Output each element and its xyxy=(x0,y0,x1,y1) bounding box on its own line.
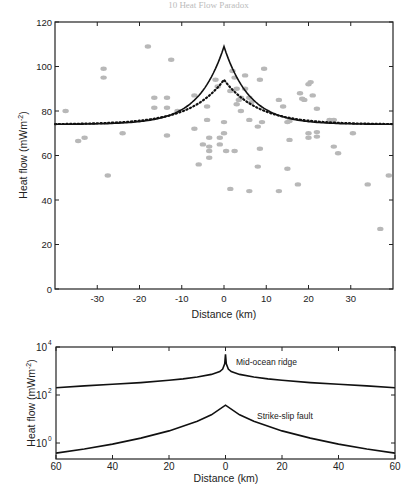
y-tick-label: 120 xyxy=(36,17,52,28)
data-point xyxy=(75,139,81,143)
data-point xyxy=(238,109,244,113)
data-point xyxy=(200,142,206,146)
data-point xyxy=(246,189,252,193)
data-point xyxy=(310,93,316,97)
data-point xyxy=(331,144,337,148)
data-point xyxy=(151,96,157,100)
data-point xyxy=(100,75,106,79)
data-point xyxy=(234,87,240,91)
data-point xyxy=(284,167,290,171)
data-point xyxy=(276,98,282,102)
data-point xyxy=(261,67,267,71)
data-point xyxy=(217,136,223,140)
x-tick-label: 40 xyxy=(333,461,345,472)
strike-slip-fault-curve xyxy=(56,405,395,453)
data-point xyxy=(221,131,227,135)
data-point xyxy=(314,134,320,138)
data-point xyxy=(62,109,68,113)
data-point xyxy=(307,80,313,84)
figure: -30-20-100102030020406080100120 Distance… xyxy=(0,0,417,500)
data-point xyxy=(305,136,311,140)
data-point xyxy=(204,104,210,108)
data-point xyxy=(105,173,111,177)
y-tick-label: 100 xyxy=(36,61,52,72)
data-point xyxy=(212,78,218,82)
data-point xyxy=(164,133,170,137)
data-point xyxy=(386,173,392,177)
x-tick-label: 30 xyxy=(345,293,356,304)
data-point xyxy=(119,131,125,135)
top-axis-ticks: -30-20-100102030020406080100120 xyxy=(36,17,393,305)
x-tick-label: 20 xyxy=(303,293,314,304)
data-point xyxy=(297,91,303,95)
data-point xyxy=(217,142,223,146)
data-point xyxy=(259,120,265,124)
y-tick-label: 10 xyxy=(36,342,48,353)
data-point xyxy=(206,144,212,148)
y-tick-label: 20 xyxy=(41,239,52,250)
x-tick-label: 20 xyxy=(276,461,288,472)
y-tick-label: 10 xyxy=(36,390,48,401)
data-point xyxy=(286,138,292,142)
bottom-x-axis-label: Distance (km) xyxy=(194,472,259,484)
y-tick-label: 10 xyxy=(36,438,48,449)
data-point xyxy=(255,164,261,168)
data-point xyxy=(257,147,263,151)
data-point xyxy=(350,131,356,135)
x-tick-label: -10 xyxy=(175,293,189,304)
data-point xyxy=(81,136,87,140)
data-point xyxy=(206,136,212,140)
data-point xyxy=(280,104,286,108)
ridge-annotation: Mid-ocean ridge xyxy=(236,357,297,367)
x-tick-label: 0 xyxy=(221,293,226,304)
y-tick-exponent: 0 xyxy=(48,435,52,442)
data-point xyxy=(206,156,212,160)
heat-flow-log-chart: 6040200204060100102104 Mid-ocean ridge S… xyxy=(25,339,401,484)
bottom-y-axis-label: Heat flow (mWm-2) xyxy=(25,359,37,446)
observed-points xyxy=(62,44,392,231)
data-point xyxy=(314,130,320,134)
data-point xyxy=(206,149,212,153)
x-tick-label: 40 xyxy=(107,461,119,472)
y-tick-label: 0 xyxy=(47,284,52,295)
x-tick-label: -30 xyxy=(90,293,104,304)
top-x-axis-label: Distance (km) xyxy=(192,308,257,320)
y-tick-exponent: 2 xyxy=(48,387,52,394)
data-point xyxy=(191,127,197,131)
x-tick-label: 0 xyxy=(223,461,229,472)
data-point xyxy=(365,182,371,186)
y-tick-label: 80 xyxy=(41,106,52,117)
top-plot-frame xyxy=(55,22,393,289)
data-point xyxy=(164,106,170,110)
y-tick-exponent: 4 xyxy=(48,339,52,346)
mid-ocean-ridge-curve xyxy=(56,354,395,388)
y-tick-label: 40 xyxy=(41,195,52,206)
data-point xyxy=(257,78,263,82)
fault-annotation: Strike-slip fault xyxy=(257,411,313,421)
data-point xyxy=(196,162,202,166)
data-point xyxy=(227,187,233,191)
data-point xyxy=(377,227,383,231)
data-point xyxy=(231,149,237,153)
data-point xyxy=(100,67,106,71)
y-tick-label: 60 xyxy=(41,150,52,161)
data-point xyxy=(276,189,282,193)
x-tick-label: 20 xyxy=(163,461,175,472)
heat-flow-scatter-chart: -30-20-100102030020406080100120 Distance… xyxy=(17,17,393,321)
data-point xyxy=(168,58,174,62)
data-point xyxy=(295,182,301,186)
data-point xyxy=(314,107,320,111)
x-tick-label: 10 xyxy=(261,293,272,304)
data-point xyxy=(246,118,252,122)
data-point xyxy=(145,44,151,48)
data-point xyxy=(335,151,341,155)
data-point xyxy=(164,96,170,100)
data-point xyxy=(255,124,261,128)
data-point xyxy=(151,106,157,110)
data-point xyxy=(305,131,311,135)
model-curve-solid xyxy=(55,47,393,125)
data-point xyxy=(234,102,240,106)
data-point xyxy=(299,97,305,101)
bottom-axis-ticks: 6040200204060100102104 xyxy=(36,339,401,472)
x-tick-label: 60 xyxy=(389,461,401,472)
